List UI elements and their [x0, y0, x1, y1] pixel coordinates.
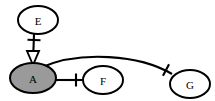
ellipse-node-icon [170, 70, 210, 98]
node-e[interactable]: E [18, 6, 58, 34]
node-g[interactable]: G [170, 70, 210, 98]
graph-diagram: E A F G [0, 0, 215, 101]
diagram-canvas: E A F G [0, 0, 215, 101]
node-f[interactable]: F [83, 66, 123, 94]
ellipse-node-icon [83, 66, 123, 94]
ellipse-node-icon [18, 6, 58, 34]
ellipse-node-icon [10, 63, 56, 93]
node-a[interactable]: A [10, 63, 56, 93]
node-layer: E A F G [10, 6, 210, 98]
